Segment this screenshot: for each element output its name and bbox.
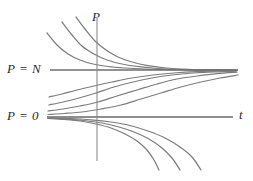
- solution-curves-group: [47, 17, 238, 170]
- solution-curve: [76, 17, 237, 70]
- solution-curve: [48, 118, 180, 170]
- p-axis-label: P: [92, 10, 100, 23]
- t-axis-label: t: [239, 108, 243, 121]
- solution-curve: [48, 75, 238, 115]
- solution-curves-plot: [0, 0, 253, 181]
- solution-curve: [48, 119, 159, 171]
- logistic-growth-figure: P t P = N P = 0: [0, 0, 253, 181]
- solution-curve: [48, 118, 201, 170]
- equilibrium-lines-group: [47, 70, 238, 117]
- equilibrium-zero-label: P = 0: [7, 109, 39, 122]
- equilibrium-n-label: P = N: [7, 62, 41, 75]
- solution-curve: [48, 72, 237, 111]
